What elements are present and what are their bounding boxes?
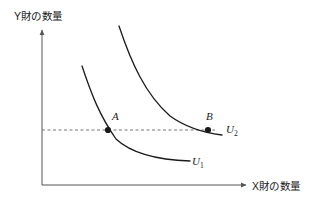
point-b-label: B — [206, 110, 213, 122]
curve-u2-label: U2 — [226, 123, 238, 138]
point-a-marker — [105, 127, 111, 133]
curve-u2-label-text: U — [226, 123, 234, 135]
curve-u1-label-text: U — [192, 155, 200, 167]
curve-u2-label-subscript: 2 — [234, 129, 238, 138]
indifference-curve-figure — [0, 0, 321, 206]
point-a-label: A — [112, 110, 119, 122]
curve-u1-label-subscript: 1 — [200, 161, 204, 170]
x-axis-label: X財の数量 — [252, 178, 300, 193]
y-axis-label: Y財の数量 — [14, 8, 62, 23]
diagram-canvas: Y財の数量 X財の数量 A B U1 U2 — [0, 0, 321, 206]
curve-u1-label: U1 — [192, 155, 204, 170]
point-b-marker — [205, 127, 211, 133]
curve-u1 — [82, 66, 190, 161]
